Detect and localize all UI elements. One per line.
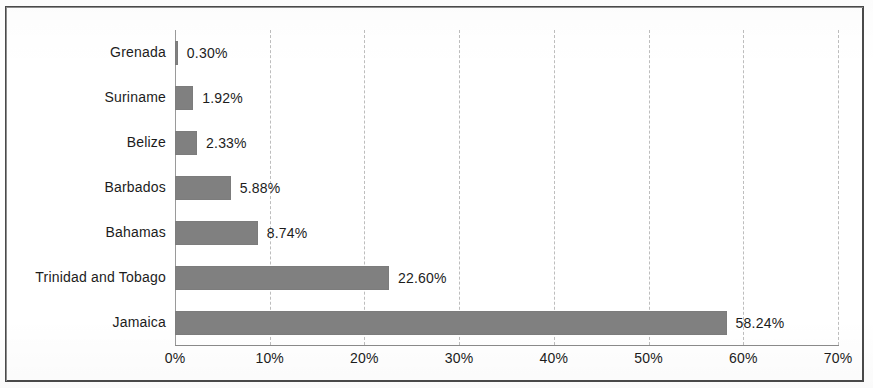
x-tick-label: 50% xyxy=(634,350,663,366)
bar-row[interactable]: 5.88% xyxy=(175,176,838,200)
x-tick-label: 0% xyxy=(165,350,186,366)
category-label: Jamaica xyxy=(1,314,166,330)
x-tick-label: 10% xyxy=(255,350,284,366)
bar[interactable] xyxy=(175,131,197,155)
bar-value-label: 58.24% xyxy=(736,315,785,331)
category-label: Suriname xyxy=(1,89,166,105)
chart-figure: GrenadaSurinameBelizeBarbadosBahamasTrin… xyxy=(0,0,873,388)
category-label: Barbados xyxy=(1,179,166,195)
category-label: Belize xyxy=(1,134,166,150)
bar[interactable] xyxy=(175,221,258,245)
bar-value-label: 0.30% xyxy=(187,45,228,61)
bar[interactable] xyxy=(175,311,727,335)
x-tick-label: 40% xyxy=(540,350,569,366)
bar-value-label: 8.74% xyxy=(267,225,308,241)
bar-value-label: 5.88% xyxy=(240,180,281,196)
category-label: Bahamas xyxy=(1,224,166,240)
category-label: Grenada xyxy=(1,44,166,60)
bar-row[interactable]: 58.24% xyxy=(175,311,838,335)
gridline-70% xyxy=(838,30,839,345)
bar-row[interactable]: 8.74% xyxy=(175,221,838,245)
bar-row[interactable]: 0.30% xyxy=(175,41,838,65)
x-tick-label: 30% xyxy=(445,350,474,366)
x-axis-tick-labels: 0%10%20%30%40%50%60%70% xyxy=(175,350,839,374)
bar[interactable] xyxy=(175,176,231,200)
x-tick-label: 20% xyxy=(350,350,379,366)
bar-row[interactable]: 1.92% xyxy=(175,86,838,110)
x-tick-label: 70% xyxy=(824,350,853,366)
category-label: Trinidad and Tobago xyxy=(1,269,166,285)
bar-value-label: 22.60% xyxy=(398,270,447,286)
x-tick-label: 60% xyxy=(729,350,758,366)
bar-value-label: 2.33% xyxy=(206,135,247,151)
plot-area: 0.30%1.92%2.33%5.88%8.74%22.60%58.24% xyxy=(175,30,838,345)
bar-row[interactable]: 22.60% xyxy=(175,266,838,290)
bar[interactable] xyxy=(175,41,178,65)
x-axis-line xyxy=(175,345,839,346)
bar[interactable] xyxy=(175,266,389,290)
bar-value-label: 1.92% xyxy=(202,90,243,106)
bar-row[interactable]: 2.33% xyxy=(175,131,838,155)
category-axis: GrenadaSurinameBelizeBarbadosBahamasTrin… xyxy=(0,30,166,345)
bar[interactable] xyxy=(175,86,193,110)
